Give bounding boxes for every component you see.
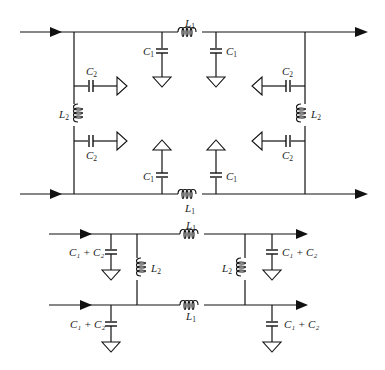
label-C1C2-top-left: C₁ + C₂ <box>69 246 104 258</box>
output-arrow-bottom-2 <box>296 300 308 310</box>
label-C1-top-left: C1 <box>143 45 154 59</box>
input-arrow-bottom <box>50 189 62 199</box>
label-L2-right-2: L2 <box>221 262 232 276</box>
input-arrow-top-2 <box>80 229 92 239</box>
label-C2-right-top: C2 <box>282 65 293 79</box>
label-L1-bottom-2: L1 <box>185 310 196 324</box>
top-circuit: L1 L1 C1 C1 C1 C1 C2 C2 C2 C2 L2 L2 <box>20 17 368 216</box>
label-C1C2-bottom-right: C₁ + C₂ <box>284 318 319 330</box>
circuit-diagram: L1 L1 C1 C1 C1 C1 C2 C2 C2 C2 L2 L2 <box>0 0 385 370</box>
label-C1-top-right: C1 <box>226 45 237 59</box>
output-arrow-top-2 <box>296 229 308 239</box>
label-C2-right-bottom: C2 <box>282 149 293 163</box>
label-C1-bottom-left: C1 <box>143 170 154 184</box>
label-L2-left-2: L2 <box>150 262 161 276</box>
label-L1-top: L1 <box>184 17 195 31</box>
label-L1-bottom: L1 <box>184 202 195 216</box>
label-L2-right: L2 <box>310 108 321 122</box>
input-arrow-bottom-2 <box>80 300 92 310</box>
bottom-circuit: L1 L1 L2 L2 C₁ + C₂ C₁ + C₂ C₁ + C₂ C₁ +… <box>49 219 319 352</box>
label-C2-left-top: C2 <box>86 65 97 79</box>
label-C2-left-bottom: C2 <box>86 149 97 163</box>
label-C1-bottom-right: C1 <box>226 170 237 184</box>
input-arrow-top <box>50 27 62 37</box>
label-C1C2-bottom-left: C₁ + C₂ <box>70 318 105 330</box>
label-L1-top-2: L1 <box>185 219 196 233</box>
output-arrow-top <box>355 27 368 37</box>
label-C1C2-top-right: C₁ + C₂ <box>282 246 317 258</box>
label-L2-left: L2 <box>58 108 69 122</box>
output-arrow-bottom <box>355 189 368 199</box>
